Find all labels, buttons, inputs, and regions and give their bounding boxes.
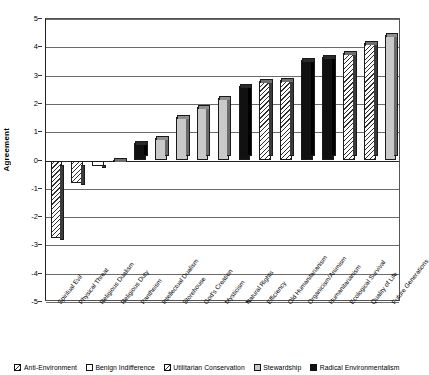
y-tick-mark (38, 301, 42, 302)
bar-slot (67, 19, 88, 300)
bar-quality-of-life (364, 43, 376, 160)
bar-side-face (353, 51, 357, 157)
bar-slot (171, 19, 192, 300)
legend-item[interactable]: Radical Environmentalism (310, 364, 399, 371)
bar-top-face (156, 136, 169, 140)
bar-slot (234, 19, 255, 300)
bar-slot (255, 19, 276, 300)
y-tick-mark (38, 46, 42, 47)
bar-side-face (311, 58, 315, 156)
bar-side-face (60, 165, 64, 241)
bar-slot (109, 19, 130, 300)
bar-side-face (206, 105, 210, 157)
y-tick-mark (38, 160, 42, 161)
bar-top-face (135, 141, 148, 145)
bar-side-face (248, 84, 252, 157)
bar-pantheism (134, 143, 146, 161)
y-tick-label: -4 (0, 269, 38, 278)
y-tick-label: -5 (0, 297, 38, 306)
bar-slot (130, 19, 151, 300)
bar-slot (297, 19, 318, 300)
y-tick-mark (38, 216, 42, 217)
bar-side-face (290, 78, 294, 157)
bar-top-face (386, 33, 399, 37)
y-tick-label: 2 (0, 99, 38, 108)
bar-ecological-survival (343, 53, 355, 161)
y-tick-mark (38, 75, 42, 76)
bar-top-face (219, 96, 232, 100)
legend-item[interactable]: Anti-Environment (14, 364, 76, 371)
y-tick-mark (38, 131, 42, 132)
legend-label: Benign Indifference (95, 364, 154, 371)
legend-swatch-icon (164, 364, 171, 371)
y-tick-mark (38, 273, 42, 274)
bar-religious-duty (113, 160, 125, 162)
bar-side-face (394, 33, 398, 157)
bar-top-face (344, 51, 357, 55)
y-tick-mark (38, 188, 42, 189)
bar-slot (213, 19, 234, 300)
bar-efficiency (259, 81, 271, 161)
bar-slot (380, 19, 401, 300)
y-tick-label: -3 (0, 240, 38, 249)
legend-item[interactable]: Stewardship (254, 364, 301, 371)
bar-side-face (227, 96, 231, 156)
bar-physical-threat (71, 161, 83, 184)
y-tick-label: -2 (0, 212, 38, 221)
bar-intellectual-dualism (155, 138, 167, 161)
bar-side-face (186, 115, 190, 156)
chart-legend: Anti-EnvironmentBenign IndifferenceUtili… (0, 364, 414, 371)
y-tick-mark (38, 103, 42, 104)
bar-humanitarianism (322, 57, 334, 160)
bar-top-face (177, 115, 190, 119)
legend-label: Anti-Environment (24, 364, 77, 371)
bar-religious-dualism (92, 161, 104, 167)
y-tick-label: 3 (0, 71, 38, 80)
y-tick-mark (38, 244, 42, 245)
bar-top-face (323, 55, 336, 59)
bar-top-face (198, 105, 211, 109)
legend-swatch-icon (310, 364, 317, 371)
legend-swatch-icon (254, 364, 261, 371)
bar-organicism-animism (301, 60, 313, 160)
legend-label: Radical Environmentalism (320, 364, 400, 371)
bar-side-face (269, 79, 273, 157)
legend-swatch-icon (86, 364, 93, 371)
legend-label: Stewardship (263, 364, 301, 371)
legend-swatch-icon (14, 364, 21, 371)
y-tick-label: 4 (0, 42, 38, 51)
bar-top-face (240, 84, 253, 88)
legend-label: Utilitarian Conservation (173, 364, 244, 371)
bar-slot (46, 19, 67, 300)
y-tick-mark (38, 18, 42, 19)
bar-side-face (81, 165, 85, 186)
bar-slot (150, 19, 171, 300)
bar-slot (88, 19, 109, 300)
bar-slot (359, 19, 380, 300)
bar-top-face (365, 41, 378, 45)
y-tick-label: 5 (0, 14, 38, 23)
bar-god-s-creation (197, 107, 209, 161)
bar-side-face (102, 165, 106, 169)
bar-side-face (374, 41, 378, 156)
bar-mysticism (218, 98, 230, 160)
bar-slot (276, 19, 297, 300)
legend-item[interactable]: Utilitarian Conservation (164, 364, 245, 371)
y-tick-label: 0 (0, 156, 38, 165)
bar-old-humanitarianism (280, 80, 292, 161)
bar-storehouse (176, 117, 188, 160)
legend-item[interactable]: Benign Indifference (86, 364, 155, 371)
bar-natural-rights (239, 86, 251, 161)
bar-top-face (260, 79, 273, 83)
y-tick-label: -1 (0, 184, 38, 193)
y-tick-label: 1 (0, 127, 38, 136)
bar-top-face (281, 78, 294, 82)
bar-top-face (302, 58, 315, 62)
x-axis-category-labels: Spiritual EvilPhysical ThreatReligious D… (45, 301, 400, 351)
bar-side-face (332, 55, 336, 156)
bar-top-face (114, 158, 127, 162)
bar-future-generations (385, 35, 397, 161)
bar-spiritual-evil (51, 161, 63, 239)
